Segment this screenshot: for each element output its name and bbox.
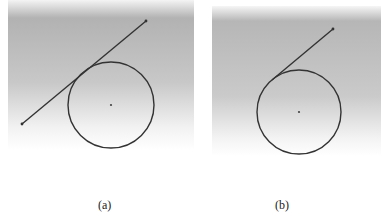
- panel-b-caption: (b): [275, 198, 289, 213]
- panel-a-line-endpoint-end: [145, 20, 148, 23]
- panel-b-background: [212, 6, 381, 156]
- figure-canvas: [0, 0, 382, 218]
- panel-b-circle-center: [298, 111, 300, 113]
- panel-b-line-endpoint: [332, 28, 335, 31]
- panel-a-caption: (a): [98, 198, 111, 213]
- panel-a-background: [8, 0, 194, 150]
- panel-b: [212, 6, 381, 156]
- panel-a-line-endpoint-start: [21, 123, 24, 126]
- panel-a: [8, 0, 194, 150]
- panel-a-circle-center: [110, 104, 112, 106]
